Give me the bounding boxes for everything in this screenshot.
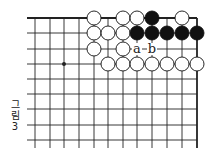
figure-caption: 그 림 3 [9, 99, 21, 132]
white-stone-icon [116, 26, 130, 40]
white-stone-icon [101, 57, 115, 71]
stones [87, 11, 204, 71]
black-stone-icon [145, 26, 159, 40]
white-stone-icon [116, 57, 130, 71]
white-stone-icon [130, 57, 144, 71]
white-stone-icon [116, 11, 130, 25]
white-stone-icon [116, 42, 130, 56]
star-point-icon [62, 62, 66, 66]
white-stone-icon [190, 57, 204, 71]
white-stone-icon [87, 11, 101, 25]
black-stone-icon [175, 26, 189, 40]
black-stone-icon [145, 11, 159, 25]
black-stone-icon [130, 26, 144, 40]
white-stone-icon [175, 11, 189, 25]
white-stone-icon [175, 57, 189, 71]
caption-char-2: 림 [9, 110, 21, 121]
star-points [62, 62, 66, 66]
white-stone-icon [160, 57, 174, 71]
black-stone-icon [190, 26, 204, 40]
white-stone-icon [87, 26, 101, 40]
go-board-diagram: ab [0, 0, 215, 160]
white-stone-icon [101, 26, 115, 40]
caption-char-1: 그 [9, 99, 21, 110]
point-label-a: a [133, 41, 141, 56]
point-labels: ab [132, 41, 157, 56]
white-stone-icon [87, 42, 101, 56]
point-label-b: b [148, 41, 156, 56]
white-stone-icon [130, 11, 144, 25]
caption-char-3: 3 [9, 121, 21, 132]
black-stone-icon [160, 26, 174, 40]
white-stone-icon [145, 57, 159, 71]
